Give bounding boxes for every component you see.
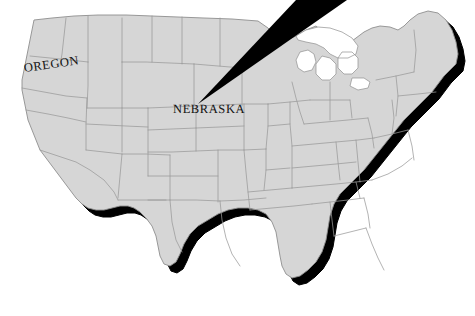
us-map-figure: OREGON NEBRASKA	[0, 0, 475, 316]
us-map-graphic	[0, 0, 475, 316]
state-label-nebraska: NEBRASKA	[173, 102, 245, 117]
